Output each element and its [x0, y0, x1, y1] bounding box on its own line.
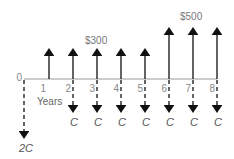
- tick-label-4: 4: [113, 84, 119, 94]
- outflow-label-year-7: C: [190, 117, 198, 128]
- outflow-label-year-8: C: [214, 117, 222, 128]
- inflow-label-500: $500: [180, 12, 202, 22]
- inflow-arrows: [49, 31, 217, 79]
- outflow-label-year-6: C: [166, 117, 174, 128]
- tick-label-6: 6: [161, 84, 167, 94]
- tick-label-7: 7: [185, 84, 191, 94]
- outflow-label-year-2: C: [70, 117, 78, 128]
- tick-label-5: 5: [137, 84, 143, 94]
- outflow-label-year-3: C: [94, 117, 102, 128]
- outflow-label-year-4: C: [118, 117, 126, 128]
- outflow-label-year-5: C: [142, 117, 150, 128]
- tick-label-1: 1: [40, 84, 46, 94]
- tick-label-8: 8: [209, 84, 215, 94]
- cash-flow-diagram: [0, 0, 234, 159]
- tick-label-3: 3: [89, 84, 95, 94]
- axis-title-years: Years: [37, 97, 62, 107]
- tick-label-2: 2: [65, 84, 71, 94]
- inflow-label-300: $300: [85, 36, 107, 46]
- outflow-label-year-0: 2C: [19, 143, 33, 154]
- tick-label-0: 0: [16, 73, 22, 83]
